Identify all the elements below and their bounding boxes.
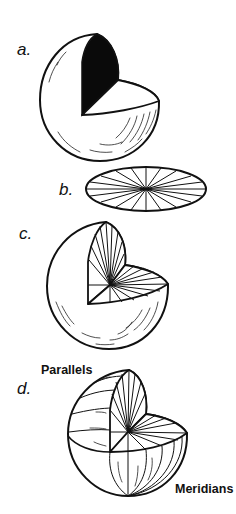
panel-b-disk: [86, 167, 206, 211]
panel-a-sphere: [40, 34, 159, 161]
parallels-label: Parallels: [41, 364, 92, 377]
panel-c-sphere: [47, 222, 168, 349]
panel-d-label: d.: [17, 380, 31, 397]
meridians-label: Meridians: [175, 483, 233, 496]
panel-b-label: b.: [59, 181, 73, 198]
figure-drawing: [0, 0, 236, 514]
panel-a-label: a.: [17, 41, 31, 58]
panel-c-label: c.: [19, 225, 32, 242]
panel-d-sphere: [68, 370, 187, 496]
figure-canvas: a. b. c. d. Parallels Meridians: [0, 0, 236, 514]
